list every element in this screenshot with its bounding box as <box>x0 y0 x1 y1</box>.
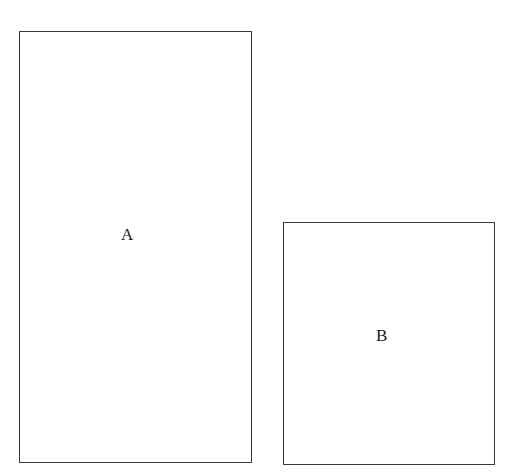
rectangle-a <box>19 31 252 463</box>
rectangle-a-label: A <box>121 226 133 243</box>
rectangle-b-label: B <box>376 327 387 344</box>
rectangle-b <box>283 222 495 465</box>
